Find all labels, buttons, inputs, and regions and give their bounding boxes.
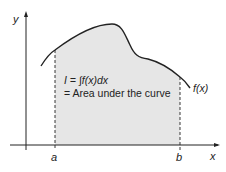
y-axis-arrow	[24, 11, 28, 17]
x-axis-label: x	[210, 150, 216, 162]
lower-limit-label: a	[51, 151, 57, 163]
x-axis-arrow	[214, 143, 220, 147]
integral-formula: I = ∫f(x)dx	[64, 74, 108, 87]
area-description: = Area under the curve	[64, 87, 171, 100]
upper-limit-label: b	[176, 151, 182, 163]
y-axis-label: y	[13, 13, 19, 25]
curve-label: f(x)	[193, 82, 208, 94]
